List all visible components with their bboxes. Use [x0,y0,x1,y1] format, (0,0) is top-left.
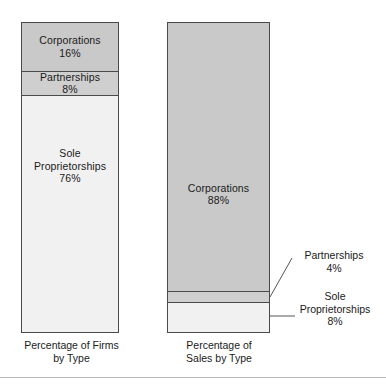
callout-label-partnerships: Partnerships 4% [285,249,383,274]
bar-percentage-of-firms: Corporations 16% Partnerships 8% Sole Pr… [21,22,119,333]
segment-label-sales-corporations: Corporations 88% [188,182,249,207]
segment-firms-corporations: Corporations 16% [22,23,118,71]
stacked-bar-chart: Corporations 16% Partnerships 8% Sole Pr… [0,0,386,389]
caption-percentage-of-sales: Percentage of Sales by Type [162,339,276,365]
bar-percentage-of-sales: Corporations 88% [167,22,270,333]
segment-firms-partnerships: Partnerships 8% [22,71,118,96]
bottom-divider-rule [0,377,386,378]
segment-label-firms-partnerships: Partnerships 8% [40,71,100,95]
segment-sales-sole-proprietorships [168,302,269,332]
segment-firms-sole-proprietorships: Sole Proprietorships 76% [22,95,118,332]
segment-label-firms-sole-proprietorships: Sole Proprietorships 76% [34,147,106,185]
segment-sales-partnerships [168,291,269,302]
callout-label-sole-proprietorships: Sole Proprietorships 8% [285,290,385,328]
segment-label-firms-corporations: Corporations 16% [39,34,100,59]
caption-percentage-of-firms: Percentage of Firms by Type [5,339,138,365]
segment-sales-corporations: Corporations 88% [168,23,269,291]
